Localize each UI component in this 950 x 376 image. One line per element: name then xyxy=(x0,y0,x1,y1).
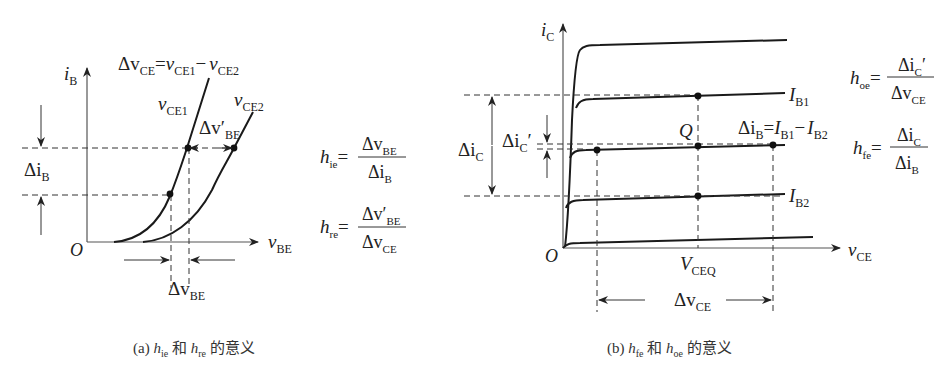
x-axis-label: vBE xyxy=(268,231,292,256)
origin-label: O xyxy=(545,246,558,266)
svg-text:ΔvCE: ΔvCE xyxy=(891,83,926,106)
y-axis-label: iB xyxy=(64,63,77,88)
curve-vce1-label: vCE1 xyxy=(158,93,188,118)
svg-text:hoe=: hoe= xyxy=(850,67,881,91)
point-left xyxy=(594,147,601,154)
delta-ib-label: ΔiB xyxy=(24,159,50,184)
svg-text:hre=: hre= xyxy=(320,216,349,240)
q-point-label: Q xyxy=(679,120,693,141)
y-axis-label: iC xyxy=(541,19,554,44)
svg-text:Δv′BE: Δv′BE xyxy=(362,204,401,227)
vceq-label: VCEQ xyxy=(680,253,716,278)
delta-ic-label: ΔiC xyxy=(458,139,484,164)
point-a3 xyxy=(167,191,174,198)
curve-bottom xyxy=(563,237,813,248)
curve-q xyxy=(570,145,785,158)
delta-ib-equation: ΔiB=IB1−IB2 xyxy=(738,117,828,142)
ib2-label: IB2 xyxy=(788,185,809,210)
curve-vce2-label: vCE2 xyxy=(234,89,264,114)
caption-b: (b) hfe 和 hoe 的意义 xyxy=(607,339,732,359)
point-right xyxy=(770,142,777,149)
delta-vbe-label: ΔvBE xyxy=(168,278,205,303)
panel-b: iC vCE O IB1 IB2 Q xyxy=(458,19,934,359)
delta-ic-prime-label: ΔiC′ xyxy=(502,130,532,155)
formula-hre: hre= Δv′BE ΔvCE xyxy=(320,204,406,255)
formula-hie: hie= ΔvBE ΔiB xyxy=(320,134,406,185)
ib1-label: IB1 xyxy=(788,84,809,109)
svg-text:ΔiC: ΔiC xyxy=(897,125,921,148)
formula-hfe: hfe= ΔiC ΔiB xyxy=(853,125,928,176)
diagram-canvas: iB vBE O ΔvCE=vCE1−vCE2 vCE1 vCE2 Δv′ xyxy=(0,0,950,376)
svg-text:ΔvBE: ΔvBE xyxy=(362,134,397,157)
point-q xyxy=(695,143,702,150)
svg-text:hie=: hie= xyxy=(320,146,348,170)
delta-vce-label: ΔvCE xyxy=(674,289,711,314)
svg-text:ΔiB: ΔiB xyxy=(895,153,919,176)
point-ib2 xyxy=(695,193,702,200)
delta-vce-equation: ΔvCE=vCE1−vCE2 xyxy=(118,53,239,78)
delta-vbe-prime-label: Δv′BE xyxy=(199,117,240,142)
origin-label: O xyxy=(70,240,83,260)
svg-text:ΔvCE: ΔvCE xyxy=(362,232,397,255)
caption-a: (a) hie 和 hre 的意义 xyxy=(133,339,255,359)
svg-text:ΔiB: ΔiB xyxy=(368,162,392,185)
svg-text:ΔiC′: ΔiC′ xyxy=(898,55,926,78)
point-ib1 xyxy=(695,93,702,100)
svg-text:hfe=: hfe= xyxy=(853,137,882,161)
x-axis-label: vCE xyxy=(848,239,872,264)
formula-hoe: hoe= ΔiC′ ΔvCE xyxy=(850,55,934,106)
panel-a: iB vBE O ΔvCE=vCE1−vCE2 vCE1 vCE2 Δv′ xyxy=(22,53,406,359)
